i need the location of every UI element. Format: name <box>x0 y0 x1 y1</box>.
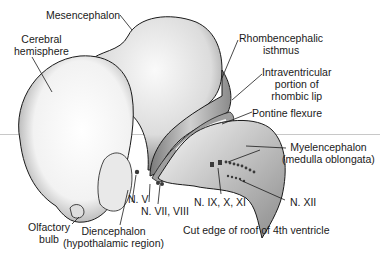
label-line: isthmus <box>239 44 323 56</box>
label-line: (medulla oblongata) <box>282 153 375 165</box>
label-line: Cerebral <box>14 33 69 45</box>
label-line: Intraventricular <box>262 66 331 78</box>
label-myelencephalon: Myelencephalon (medulla oblongata) <box>282 141 375 165</box>
label-line: Myelencephalon <box>282 141 375 153</box>
brain-diagram: Mesencephalon Cerebral hemisphere Rhombe… <box>0 0 380 253</box>
label-cerebral-hemisphere: Cerebral hemisphere <box>14 33 69 57</box>
label-n-v: N. V <box>128 193 148 205</box>
label-line: rhombic lip <box>262 90 331 102</box>
label-pontine-flexure: Pontine flexure <box>252 107 322 119</box>
label-n-vii-viii: N. VII, VIII <box>141 205 189 217</box>
label-mesencephalon: Mesencephalon <box>46 9 120 21</box>
label-line: (hypothalamic region) <box>63 237 164 249</box>
label-line: hemisphere <box>14 45 69 57</box>
diencephalon-shape <box>98 153 132 211</box>
label-n-xii: N. XII <box>290 196 316 208</box>
olfactory-bulb-shape <box>70 205 84 219</box>
label-n-ix-x-xi: N. IX, X, XI <box>194 196 246 208</box>
label-cut-edge-4th-ventricle: Cut edge of roof of 4th ventricle <box>183 224 330 236</box>
label-diencephalon: Diencephalon (hypothalamic region) <box>63 225 164 249</box>
label-line: Rhombencephalic <box>239 32 323 44</box>
label-rhombencephalic-isthmus: Rhombencephalic isthmus <box>239 32 323 56</box>
label-line: portion of <box>262 78 331 90</box>
label-intraventricular-rhombic-lip: Intraventricular portion of rhombic lip <box>262 66 331 102</box>
label-line: Diencephalon <box>63 225 164 237</box>
